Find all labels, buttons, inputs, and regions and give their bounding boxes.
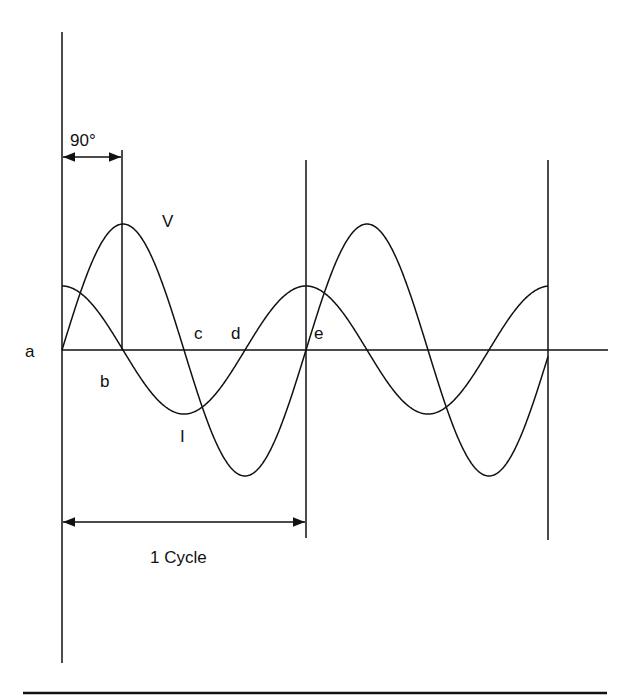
label-b: b (100, 372, 109, 391)
label-d: d (231, 324, 240, 343)
phase-diagram: 90° V I a b c d e 1 Cycle (0, 0, 630, 700)
current-label: I (180, 427, 185, 446)
phase-label: 90° (70, 131, 96, 150)
voltage-label: V (162, 212, 174, 231)
label-e: e (314, 324, 323, 343)
label-a: a (25, 342, 35, 361)
label-c: c (194, 324, 203, 343)
cycle-label: 1 Cycle (150, 548, 207, 567)
